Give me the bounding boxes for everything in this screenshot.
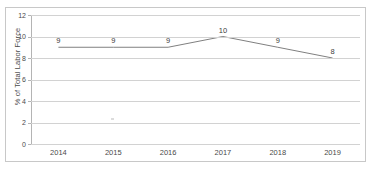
y-tick-label: 4 (4, 98, 26, 105)
data-point-label: 9 (111, 37, 115, 45)
y-tick-mark (28, 58, 31, 59)
gridline (31, 80, 360, 81)
y-tick-mark (28, 37, 31, 38)
x-tick-label: 2019 (305, 148, 360, 160)
y-tick-label: 10 (4, 33, 26, 40)
data-point-label: 10 (219, 27, 227, 35)
y-axis-tick-labels: 121086420 (0, 0, 26, 173)
plot-area: 9991098 (31, 15, 360, 144)
y-tick-label: 2 (4, 119, 26, 126)
x-tick-label: 2017 (195, 148, 250, 160)
data-point-label: 9 (276, 37, 280, 45)
x-tick-label: 2018 (250, 148, 305, 160)
x-tick-label: 2016 (141, 148, 196, 160)
data-point-label: 8 (330, 48, 334, 56)
stray-artifact-speck (111, 118, 114, 120)
data-point-label: 9 (56, 37, 60, 45)
chart-screenshot: % of Total Labor Force 121086420 9991098… (0, 0, 373, 173)
chart-title-cropped (36, 0, 336, 1)
y-tick-label: 6 (4, 76, 26, 83)
x-axis-tick-labels: 201420152016201720182019 (31, 148, 360, 160)
y-tick-mark (28, 15, 31, 16)
gridline (31, 101, 360, 102)
y-tick-mark (28, 101, 31, 102)
series-polyline (58, 37, 332, 59)
y-tick-mark (28, 144, 31, 145)
y-tick-mark (28, 80, 31, 81)
y-tick-label: 12 (4, 12, 26, 19)
data-point-label: 9 (166, 37, 170, 45)
gridline (31, 144, 360, 145)
gridline (31, 123, 360, 124)
gridline (31, 15, 360, 16)
y-tick-label: 8 (4, 55, 26, 62)
x-tick-label: 2015 (86, 148, 141, 160)
gridline (31, 37, 360, 38)
x-tick-label: 2014 (31, 148, 86, 160)
y-tick-label: 0 (4, 141, 26, 148)
gridline (31, 58, 360, 59)
y-tick-mark (28, 123, 31, 124)
